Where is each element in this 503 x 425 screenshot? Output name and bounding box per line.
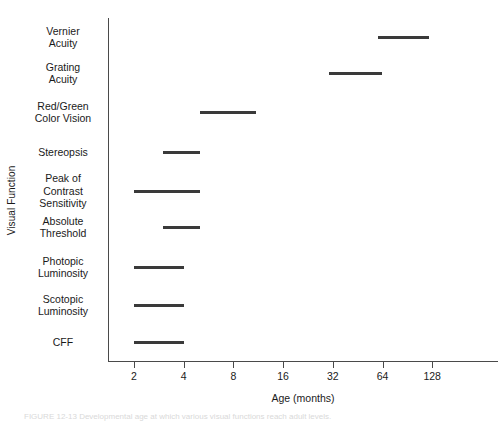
- category-label: Red/Green Color Vision: [22, 100, 104, 125]
- x-axis-tick: [383, 362, 384, 368]
- category-label: CFF: [22, 336, 104, 349]
- x-axis-tick: [233, 362, 234, 368]
- range-bar: [378, 36, 429, 39]
- x-axis-tick: [283, 362, 284, 368]
- range-bar: [163, 226, 200, 229]
- category-label: Grating Acuity: [22, 61, 104, 86]
- x-axis-line: [108, 361, 498, 362]
- range-bar: [134, 304, 184, 307]
- plot-area: 248163264128: [108, 18, 498, 362]
- x-axis-title: Age (months): [108, 392, 498, 404]
- y-axis-title-text: Visual Function: [7, 165, 18, 235]
- category-label: Scotopic Luminosity: [22, 293, 104, 318]
- range-bar: [200, 111, 257, 114]
- x-axis-tick: [333, 362, 334, 368]
- range-bar: [163, 151, 200, 154]
- y-axis-title: Visual Function: [0, 140, 24, 260]
- x-axis-tick-label: 32: [313, 370, 353, 382]
- figure-caption: FIGURE 12-13 Developmental age at which …: [24, 412, 484, 422]
- x-axis-tick: [134, 362, 135, 368]
- category-label: Peak of Contrast Sensitivity: [22, 172, 104, 210]
- range-bar: [134, 190, 200, 193]
- x-axis-tick: [432, 362, 433, 368]
- range-bar: [134, 341, 184, 344]
- x-axis-tick-label: 2: [114, 370, 154, 382]
- x-axis-tick-label: 16: [263, 370, 303, 382]
- category-label: Vernier Acuity: [22, 25, 104, 50]
- x-axis-tick-label: 128: [412, 370, 452, 382]
- range-bar: [134, 266, 184, 269]
- category-label: Stereopsis: [22, 146, 104, 159]
- x-axis-tick-label: 64: [363, 370, 403, 382]
- figure-root: Visual Function Vernier AcuityGrating Ac…: [0, 0, 503, 425]
- y-axis-line: [108, 18, 109, 362]
- category-label-column: Vernier AcuityGrating AcuityRed/Green Co…: [22, 14, 104, 362]
- category-label: Absolute Threshold: [22, 215, 104, 240]
- x-axis-tick-label: 4: [164, 370, 204, 382]
- x-axis-tick-label: 8: [213, 370, 253, 382]
- category-label: Photopic Luminosity: [22, 255, 104, 280]
- range-bar: [329, 72, 382, 75]
- x-axis-tick: [184, 362, 185, 368]
